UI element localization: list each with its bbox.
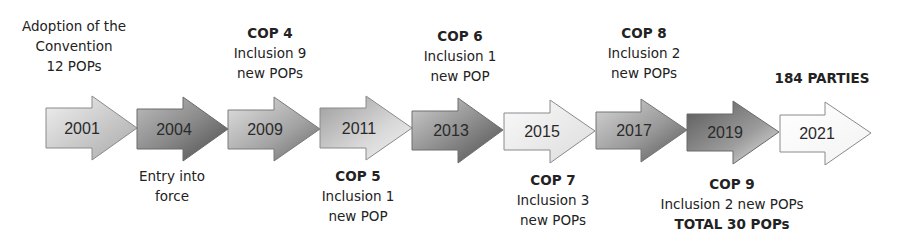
milestone-2019-label: COP 9 Inclusion 2 new POPs TOTAL 30 POPs [661, 174, 804, 234]
label-line: Inclusion 2 new POPs [661, 194, 804, 214]
label-line: Inclusion 2 [608, 43, 681, 63]
label-line: Inclusion 1 [424, 46, 497, 66]
label-line: Inclusion 1 [322, 186, 395, 206]
arrow-2001: 2001 [46, 96, 137, 160]
label-line: Inclusion 9 [234, 43, 307, 63]
cop-title: COP 6 [424, 26, 497, 46]
arrow-2011: 2011 [320, 96, 412, 160]
cop-title: COP 9 [661, 174, 804, 194]
label-line: Adoption of the [22, 16, 126, 36]
milestone-2009-label: COP 4 Inclusion 9 new POPs [234, 23, 307, 83]
milestone-2015-label: COP 7 Inclusion 3 new POPs [517, 170, 590, 230]
arrow-2015: 2015 [504, 100, 595, 163]
year-label: 2021 [799, 125, 835, 142]
arrow-2019: 2019 [687, 101, 779, 164]
label-line: new POPs [517, 210, 590, 230]
arrow-2009: 2009 [228, 97, 320, 161]
year-label: 2015 [524, 123, 560, 140]
label-line: new POPs [234, 63, 307, 83]
milestone-2021-label: 184 PARTIES [775, 68, 870, 88]
label-line: force [139, 186, 205, 206]
label-line: Entry into [139, 166, 205, 186]
arrow-2013: 2013 [412, 98, 503, 163]
label-line: 12 POPs [22, 56, 126, 76]
total-pops: TOTAL 30 POPs [661, 214, 804, 234]
label-line: new POP [322, 206, 395, 226]
year-label: 2017 [616, 122, 652, 139]
label-line: Inclusion 3 [517, 190, 590, 210]
year-label: 2019 [707, 124, 743, 141]
year-label: 2013 [433, 122, 469, 139]
cop-title: COP 8 [608, 23, 681, 43]
cop-title: COP 5 [322, 166, 395, 186]
arrow-2004: 2004 [137, 97, 228, 161]
label-line: Convention [22, 36, 126, 56]
parties-count: 184 PARTIES [775, 68, 870, 88]
arrow-2021: 2021 [780, 102, 871, 165]
year-label: 2011 [342, 120, 377, 137]
arrow-2017: 2017 [596, 99, 687, 162]
label-line: new POPs [608, 63, 681, 83]
milestone-2001-label: Adoption of the Convention 12 POPs [22, 16, 126, 76]
year-label: 2004 [156, 121, 192, 138]
milestone-2013-label: COP 6 Inclusion 1 new POP [424, 26, 497, 86]
cop-title: COP 7 [517, 170, 590, 190]
cop-title: COP 4 [234, 23, 307, 43]
milestone-2017-label: COP 8 Inclusion 2 new POPs [608, 23, 681, 83]
milestone-2011-label: COP 5 Inclusion 1 new POP [322, 166, 395, 226]
label-line: new POP [424, 66, 497, 86]
milestone-2004-label: Entry into force [139, 166, 205, 206]
year-label: 2001 [64, 120, 100, 137]
year-label: 2009 [247, 121, 283, 138]
